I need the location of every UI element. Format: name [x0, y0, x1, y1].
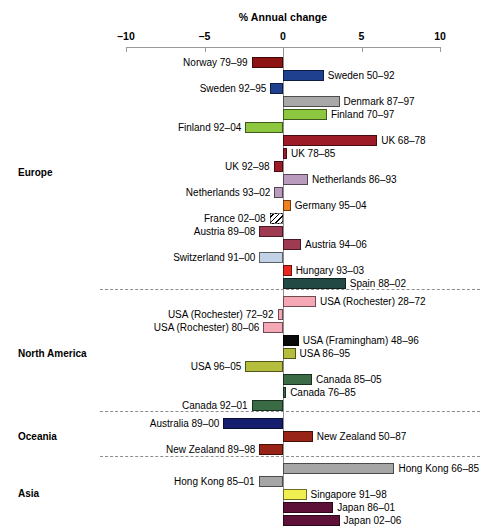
bar-label: Switzerland 91–00 — [173, 251, 255, 264]
bar-finland-92-04[interactable] — [245, 122, 283, 133]
bar-usa-framingham-48-96[interactable] — [283, 335, 299, 346]
bar-austria-94-06[interactable] — [283, 239, 301, 250]
bar-label: Sweden 50–92 — [328, 69, 395, 82]
bar-label: Germany 95–04 — [295, 199, 367, 212]
bar-canada-92-01[interactable] — [252, 400, 283, 411]
bar-label: USA 96–05 — [191, 360, 242, 373]
bar-label: USA 86–95 — [300, 347, 351, 360]
bar-label: UK 78–85 — [291, 147, 335, 160]
chart-row: Austria 89–08 — [0, 226, 499, 239]
bar-canada-76-85[interactable] — [283, 387, 286, 398]
bar-label: USA (Framingham) 48–96 — [303, 334, 419, 347]
bar-spain-88-02[interactable] — [283, 278, 346, 289]
bar-label: Canada 85–05 — [316, 373, 382, 386]
bar-hong-kong-85-01[interactable] — [259, 476, 283, 487]
chart-row: USA (Rochester) 80–06 — [0, 322, 499, 335]
chart-row: Sweden 92–95 — [0, 83, 499, 96]
bar-label: UK 92–98 — [225, 160, 269, 173]
bar-usa-86-95[interactable] — [283, 348, 296, 359]
chart-row: Denmark 87–97 — [0, 96, 499, 109]
bar-usa-rochester-72-92[interactable] — [278, 309, 283, 320]
chart-row: USA (Framingham) 48–96 — [0, 335, 499, 348]
chart-row: Japan 02–06 — [0, 515, 499, 528]
chart-row: Japan 86–01 — [0, 502, 499, 515]
bar-label: Hungary 93–03 — [296, 264, 364, 277]
bar-netherlands-93-02[interactable] — [274, 187, 283, 198]
bar-germany-95-04[interactable] — [283, 200, 291, 211]
bar-finland-70-97[interactable] — [283, 109, 327, 120]
bar-label: Hong Kong 66–85 — [398, 462, 479, 475]
bar-sweden-50-92[interactable] — [283, 70, 324, 81]
chart-row: Canada 85–05 — [0, 374, 499, 387]
bar-label: Netherlands 86–93 — [312, 173, 397, 186]
bar-label: New Zealand 50–87 — [317, 430, 407, 443]
region-label-north-america: North America — [18, 348, 87, 359]
bar-canada-85-05[interactable] — [283, 374, 312, 385]
chart-row: UK 68–78 — [0, 135, 499, 148]
bar-sweden-92-95[interactable] — [270, 83, 283, 94]
bar-uk-92-98[interactable] — [274, 161, 283, 172]
region-separator — [100, 411, 480, 412]
figure-caption — [8, 454, 494, 462]
chart-row: Finland 70–97 — [0, 109, 499, 122]
chart-row: Australia 89–00 — [0, 418, 499, 431]
bar-label: USA (Rochester) 28–72 — [320, 295, 426, 308]
bar-label: Hong Kong 85–01 — [174, 475, 255, 488]
chart-row: Hong Kong 85–01 — [0, 476, 499, 489]
bar-label: Finland 92–04 — [178, 121, 241, 134]
bar-label: Singapore 91–98 — [311, 488, 387, 501]
chart-row: Hungary 93–03 — [0, 265, 499, 278]
bar-hong-kong-66-85[interactable] — [283, 463, 394, 474]
region-label-europe: Europe — [18, 167, 52, 178]
bar-label: Japan 02–06 — [344, 514, 402, 527]
bar-label: Spain 88–02 — [350, 277, 406, 290]
bar-australia-89-00[interactable] — [223, 418, 283, 429]
bar-label: Norway 79–99 — [183, 56, 247, 69]
region-separator — [100, 289, 480, 290]
bar-usa-rochester-28-72[interactable] — [283, 296, 316, 307]
bar-usa-96-05[interactable] — [245, 361, 283, 372]
bar-label: Sweden 92–95 — [200, 82, 267, 95]
bar-label: Finland 70–97 — [331, 108, 394, 121]
bar-label: Netherlands 93–02 — [186, 186, 271, 199]
chart-row: UK 92–98 — [0, 161, 499, 174]
bar-label: Austria 89–08 — [194, 225, 256, 238]
bar-uk-78-85[interactable] — [283, 148, 287, 159]
chart-row: Netherlands 93–02 — [0, 187, 499, 200]
bar-label: UK 68–78 — [381, 134, 425, 147]
bar-label: Japan 86–01 — [337, 501, 395, 514]
bar-austria-89-08[interactable] — [259, 226, 283, 237]
bar-label: Canada 76–85 — [290, 386, 356, 399]
chart-row: USA 96–05 — [0, 361, 499, 374]
bar-label: Austria 94–06 — [305, 238, 367, 251]
bar-france-02-08[interactable] — [270, 213, 283, 224]
region-label-oceania: Oceania — [18, 431, 57, 442]
bar-singapore-91-98[interactable] — [283, 489, 307, 500]
bar-label: USA (Rochester) 80–06 — [154, 321, 260, 334]
chart-row: Singapore 91–98 — [0, 489, 499, 502]
bar-japan-02-06[interactable] — [283, 515, 340, 526]
chart-row: Canada 76–85 — [0, 387, 499, 400]
bar-japan-86-01[interactable] — [283, 502, 333, 513]
bar-switzerland-91-00[interactable] — [259, 252, 283, 263]
chart-row: Norway 79–99 — [0, 57, 499, 70]
bar-new-zealand-50-87[interactable] — [283, 431, 313, 442]
bar-label: Australia 89–00 — [150, 417, 220, 430]
bar-usa-rochester-80-06[interactable] — [263, 322, 283, 333]
bar-label: Canada 92–01 — [182, 399, 248, 412]
bar-netherlands-86-93[interactable] — [283, 174, 308, 185]
bar-uk-68-78[interactable] — [283, 135, 377, 146]
region-label-asia: Asia — [18, 488, 39, 499]
bar-label: USA (Rochester) 72–92 — [168, 308, 274, 321]
bar-label: Denmark 87–97 — [344, 95, 415, 108]
bar-denmark-87-97[interactable] — [283, 96, 340, 107]
bar-label: France 02–08 — [204, 212, 266, 225]
bar-norway-79-99[interactable] — [252, 57, 283, 68]
bar-hungary-93-03[interactable] — [283, 265, 292, 276]
chart-row: Switzerland 91–00 — [0, 252, 499, 265]
